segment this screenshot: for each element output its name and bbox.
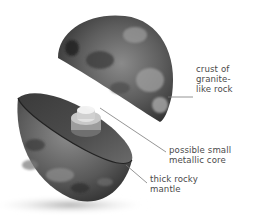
mantle-label-line-2: mantle — [150, 184, 198, 194]
moon-illustration — [0, 0, 253, 222]
moon-cutaway-diagram: crust of granite- like rock possible sma… — [0, 0, 253, 222]
core-label-line-2: metallic core — [169, 155, 231, 165]
core-label: possible small metallic core — [169, 145, 231, 165]
core-glow — [81, 88, 109, 112]
crust-label-line-3: like rock — [196, 84, 233, 94]
crust-label-line-1: crust of — [196, 64, 233, 74]
core-label-line-1: possible small — [169, 145, 231, 155]
mantle-label-line-1: thick rocky — [150, 174, 198, 184]
crust-label: crust of granite- like rock — [196, 64, 233, 94]
mantle-label: thick rocky mantle — [150, 174, 198, 194]
mantle-leader-line — [126, 165, 147, 183]
crust-label-line-2: granite- — [196, 74, 233, 84]
